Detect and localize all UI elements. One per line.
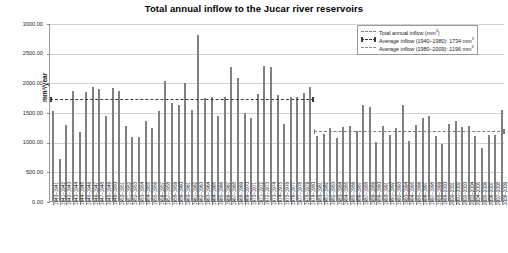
x-tick-label: 1965–1966 bbox=[219, 182, 224, 205]
y-tick-label: 0.00 bbox=[0, 199, 43, 205]
x-tick-label: 1996–1997 bbox=[423, 182, 428, 205]
gridline bbox=[50, 83, 504, 84]
x-tick-label: 1981–1982 bbox=[324, 182, 329, 205]
x-tick-label: 1982–1983 bbox=[331, 182, 336, 205]
average-line-endpoint bbox=[50, 97, 52, 102]
legend-label: Average inflow (1980–2009): 1196 mm3 bbox=[379, 45, 474, 52]
x-tick-label: 2005–2006 bbox=[483, 182, 488, 205]
x-tick-label: 1984–1985 bbox=[344, 182, 349, 205]
average-inflow-line-1 bbox=[50, 99, 314, 100]
x-tick-label: 1943–1944 bbox=[74, 182, 79, 205]
legend-item: Average inflow (1980–2009): 1196 mm3 bbox=[360, 44, 474, 52]
x-tick-label: 1993–1994 bbox=[404, 182, 409, 205]
x-tick-label: 1949–1950 bbox=[113, 182, 118, 205]
x-tick-label: 1972–1973 bbox=[265, 182, 270, 205]
x-tick-label: 1974–1975 bbox=[278, 182, 283, 205]
x-tick-label: 1970–1971 bbox=[252, 182, 257, 205]
x-tick-label: 1942–1943 bbox=[67, 182, 72, 205]
x-tick-label: 1976–1977 bbox=[291, 182, 296, 205]
bar bbox=[197, 35, 199, 201]
x-tick-label: 1956–1957 bbox=[160, 182, 165, 205]
y-axis-label: mm³/year bbox=[41, 73, 48, 102]
legend-swatch-icon bbox=[360, 28, 377, 36]
y-tick-mark bbox=[47, 202, 50, 203]
x-tick-label: 1977–1978 bbox=[298, 182, 303, 205]
x-tick-label: 1958–1959 bbox=[173, 182, 178, 205]
y-tick-label: 3000.00 bbox=[0, 21, 43, 27]
x-tick-label: 1978–1979 bbox=[305, 182, 310, 205]
x-tick-label: 1999–2000 bbox=[443, 182, 448, 205]
x-tick-label: 1975–1976 bbox=[285, 182, 290, 205]
x-tick-label: 1969–1970 bbox=[245, 182, 250, 205]
x-tick-label: 1985–1986 bbox=[351, 182, 356, 205]
x-tick-label: 2004–2005 bbox=[476, 182, 481, 205]
x-tick-label: 1987–1988 bbox=[364, 182, 369, 205]
x-tick-label: 1986–1987 bbox=[357, 182, 362, 205]
average-line-endpoint bbox=[314, 129, 316, 134]
x-tick-label: 1983–1984 bbox=[338, 182, 343, 205]
x-tick-label: 1994–1995 bbox=[410, 182, 415, 205]
x-tick-label: 1960–1961 bbox=[186, 182, 191, 205]
x-tick-label: 1941–1942 bbox=[61, 182, 66, 205]
x-tick-label: 1998–1999 bbox=[437, 182, 442, 205]
x-tick-label: 1989–1990 bbox=[377, 182, 382, 205]
x-tick-label: 1954–1955 bbox=[146, 182, 151, 205]
x-axis-labels: 1940–19411941–19421942–19431943–19441944… bbox=[49, 205, 504, 253]
legend-label: Average inflow (1940–1980): 1734 mm3 bbox=[379, 37, 474, 44]
x-tick-label: 1979–1980 bbox=[311, 182, 316, 205]
x-tick-label: 1980–1981 bbox=[318, 182, 323, 205]
x-tick-label: 1963–1964 bbox=[206, 182, 211, 205]
y-tick-mark bbox=[47, 54, 50, 55]
x-tick-label: 2000–2001 bbox=[450, 182, 455, 205]
legend-label: Total annual inflow (mm3) bbox=[379, 29, 440, 36]
chart-title: Total annual inflow to the Jucar river r… bbox=[0, 3, 508, 14]
y-tick-mark bbox=[47, 172, 50, 173]
x-tick-label: 1971–1972 bbox=[259, 182, 264, 205]
x-tick-label: 1940–1941 bbox=[54, 182, 59, 205]
x-tick-label: 2006–2007 bbox=[489, 182, 494, 205]
y-tick-mark bbox=[47, 83, 50, 84]
x-tick-label: 1945–1946 bbox=[87, 182, 92, 205]
y-tick-label: 2000.00 bbox=[0, 80, 43, 86]
bar bbox=[263, 66, 265, 201]
x-tick-label: 1992–1993 bbox=[397, 182, 402, 205]
legend-item: Average inflow (1940–1980): 1734 mm3 bbox=[360, 36, 474, 44]
x-tick-label: 1959–1960 bbox=[179, 182, 184, 205]
y-tick-label: 1000.00 bbox=[0, 139, 43, 145]
bar bbox=[270, 67, 272, 201]
x-tick-label: 1967–1968 bbox=[232, 182, 237, 205]
average-line-endpoint bbox=[503, 129, 505, 134]
x-tick-label: 2003–2004 bbox=[470, 182, 475, 205]
x-tick-label: 1952–1953 bbox=[133, 182, 138, 205]
y-tick-label: 500.00 bbox=[0, 169, 43, 175]
y-tick-mark bbox=[47, 113, 50, 114]
y-tick-mark bbox=[47, 24, 50, 25]
y-tick-label: 2500.00 bbox=[0, 50, 43, 56]
x-tick-label: 2007–2008 bbox=[496, 182, 501, 205]
x-tick-label: 1966–1967 bbox=[226, 182, 231, 205]
bar bbox=[230, 67, 232, 201]
y-tick-label: 1500.00 bbox=[0, 110, 43, 116]
x-tick-label: 1988–1989 bbox=[371, 182, 376, 205]
legend-swatch-icon bbox=[360, 36, 377, 44]
x-tick-label: 2001–2002 bbox=[456, 182, 461, 205]
legend-item: Total annual inflow (mm3) bbox=[360, 28, 474, 36]
x-tick-label: 1948–1949 bbox=[107, 182, 112, 205]
x-tick-label: 1995–1996 bbox=[417, 182, 422, 205]
x-tick-label: 1947–1948 bbox=[100, 182, 105, 205]
x-tick-label: 1990–1991 bbox=[384, 182, 389, 205]
x-tick-label: 1953–1954 bbox=[140, 182, 145, 205]
x-tick-label: 1962–1963 bbox=[199, 182, 204, 205]
x-tick-label: 1991–1992 bbox=[390, 182, 395, 205]
x-tick-label: 1961–1962 bbox=[193, 182, 198, 205]
x-tick-label: 1951–1952 bbox=[127, 182, 132, 205]
x-tick-label: 1950–1951 bbox=[120, 182, 125, 205]
chart-legend: Total annual inflow (mm3)Average inflow … bbox=[357, 25, 478, 55]
average-line-endpoint bbox=[312, 97, 314, 102]
x-tick-label: 1997–1998 bbox=[430, 182, 435, 205]
x-tick-label: 2002–2003 bbox=[463, 182, 468, 205]
y-tick-mark bbox=[47, 143, 50, 144]
average-inflow-line-2 bbox=[314, 131, 505, 132]
x-tick-label: 1968–1969 bbox=[239, 182, 244, 205]
x-tick-label: 2008–2009 bbox=[503, 182, 508, 205]
